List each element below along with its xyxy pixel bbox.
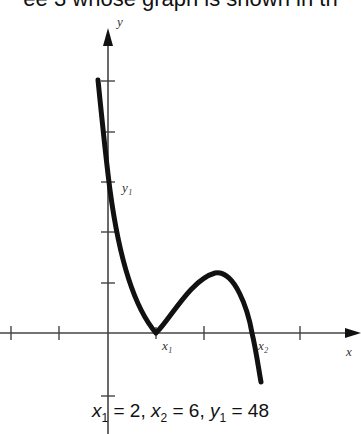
x1-symbol: x bbox=[92, 400, 102, 421]
x-axis bbox=[0, 326, 361, 340]
caption: x1 = 2, x2 = 6, y1 = 48 bbox=[0, 400, 361, 425]
y-axis-label: y bbox=[115, 14, 123, 29]
y1-value: = 48 bbox=[226, 400, 269, 421]
x1-value: = 2, bbox=[108, 400, 151, 421]
x-axis-label: x bbox=[345, 344, 352, 359]
y1-tag: y₁ bbox=[120, 180, 132, 195]
x1-tag: x₁ bbox=[161, 338, 172, 353]
y-axis bbox=[101, 28, 115, 434]
x2-symbol: x bbox=[151, 400, 161, 421]
x2-value: = 6, bbox=[167, 400, 210, 421]
x2-tag: x₂ bbox=[257, 338, 269, 353]
cubic-graph: y x y₁ x₁ x₂ bbox=[0, 0, 361, 434]
cubic-curve bbox=[98, 80, 261, 382]
